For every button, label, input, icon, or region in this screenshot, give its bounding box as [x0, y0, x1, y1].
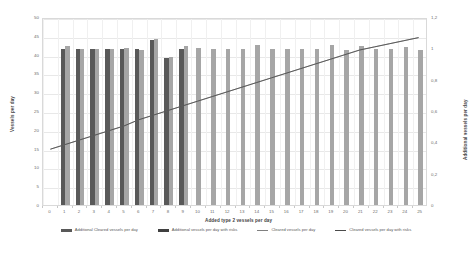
legend-swatch-icon: [335, 230, 346, 231]
x-tick-mark: [309, 206, 310, 208]
x-tick-mark: [279, 206, 280, 208]
x-tick-mark: [205, 206, 206, 208]
x-tick-mark: [353, 206, 354, 208]
y-tick-label-right: 0: [431, 204, 457, 208]
x-tick-label: 2: [72, 210, 86, 214]
x-tick-label: 20: [339, 210, 353, 214]
x-tick-mark: [146, 206, 147, 208]
x-tick-label: 7: [146, 210, 160, 214]
chart-legend: Additional Cleared vessels per dayAdditi…: [0, 228, 472, 232]
x-tick-label: 15: [265, 210, 279, 214]
x-tick-label: 14: [250, 210, 264, 214]
x-axis-title: Added type 2 vessels per day: [205, 218, 272, 223]
x-tick-mark: [397, 206, 398, 208]
legend-item[interactable]: Additional vessels per day with risks: [158, 228, 238, 232]
x-tick-mark: [190, 206, 191, 208]
x-tick-label: 25: [413, 210, 427, 214]
legend-label: Cleared vessels per day with risks: [349, 228, 411, 232]
x-tick-label: 19: [324, 210, 338, 214]
y-tick-label-left: 25: [13, 110, 39, 114]
x-tick-label: 13: [235, 210, 249, 214]
y-tick-label-left: 20: [13, 129, 39, 133]
x-tick-mark: [323, 206, 324, 208]
legend-label: Cleared vessels per day: [271, 228, 315, 232]
y-tick-label-left: 0: [13, 204, 39, 208]
x-tick-label: 22: [368, 210, 382, 214]
y-tick-label-left: 5: [13, 185, 39, 189]
x-tick-label: 12: [220, 210, 234, 214]
x-tick-mark: [160, 206, 161, 208]
plot-area: [42, 18, 427, 206]
x-tick-mark: [338, 206, 339, 208]
x-tick-mark: [235, 206, 236, 208]
chart-container: Vessels per day Additional vessels per d…: [0, 0, 472, 253]
y-tick-label-left: 15: [13, 147, 39, 151]
line-series-group: [43, 19, 426, 205]
legend-label: Additional vessels per day with risks: [172, 228, 238, 232]
x-tick-label: 16: [279, 210, 293, 214]
x-tick-mark: [42, 206, 43, 208]
x-tick-mark: [368, 206, 369, 208]
x-tick-mark: [220, 206, 221, 208]
x-tick-mark: [131, 206, 132, 208]
x-tick-label: 24: [398, 210, 412, 214]
y-tick-label-right: 1,2: [431, 16, 457, 20]
x-tick-label: 8: [161, 210, 175, 214]
legend-item[interactable]: Cleared vessels per day: [257, 228, 315, 232]
x-tick-label: 17: [294, 210, 308, 214]
legend-item[interactable]: Additional Cleared vessels per day: [61, 228, 138, 232]
x-tick-label: 5: [116, 210, 130, 214]
y-tick-label-right: 0,2: [431, 172, 457, 176]
y-tick-label-right: 1: [431, 47, 457, 51]
legend-item[interactable]: Cleared vessels per day with risks: [335, 228, 411, 232]
x-tick-label: 3: [87, 210, 101, 214]
y-tick-label-left: 35: [13, 72, 39, 76]
x-tick-label: 6: [131, 210, 145, 214]
x-tick-label: 9: [176, 210, 190, 214]
trend-line: [50, 38, 418, 150]
x-tick-label: 23: [383, 210, 397, 214]
x-tick-mark: [116, 206, 117, 208]
x-tick-label: 4: [102, 210, 116, 214]
legend-swatch-icon: [158, 229, 169, 232]
x-tick-label: 10: [190, 210, 204, 214]
y-tick-label-left: 10: [13, 166, 39, 170]
y-tick-label-right: 0,8: [431, 78, 457, 82]
x-tick-mark: [249, 206, 250, 208]
y-tick-label-left: 30: [13, 91, 39, 95]
y-axis-title-right: Additional vessels per day: [463, 99, 468, 160]
legend-label: Additional Cleared vessels per day: [75, 228, 138, 232]
x-tick-mark: [86, 206, 87, 208]
x-tick-mark: [57, 206, 58, 208]
y-tick-label-left: 50: [13, 16, 39, 20]
y-tick-label-right: 0,6: [431, 110, 457, 114]
y-tick-label-left: 40: [13, 53, 39, 57]
x-tick-label: 11: [205, 210, 219, 214]
x-tick-mark: [175, 206, 176, 208]
x-tick-label: 21: [353, 210, 367, 214]
x-tick-mark: [294, 206, 295, 208]
x-tick-label: 1: [57, 210, 71, 214]
x-tick-mark: [264, 206, 265, 208]
x-tick-mark: [412, 206, 413, 208]
x-tick-label: 18: [309, 210, 323, 214]
x-tick-label: 0: [42, 210, 56, 214]
x-tick-mark: [72, 206, 73, 208]
trend-line: [50, 38, 418, 150]
x-tick-mark: [101, 206, 102, 208]
x-tick-mark: [383, 206, 384, 208]
y-tick-label-right: 0,4: [431, 141, 457, 145]
y-tick-label-left: 45: [13, 35, 39, 39]
legend-swatch-icon: [257, 230, 268, 231]
legend-swatch-icon: [61, 229, 72, 232]
